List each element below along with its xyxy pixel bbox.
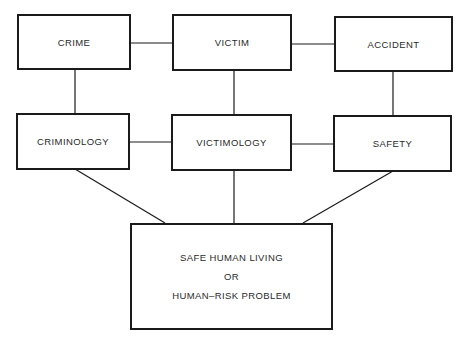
outcome-line-2: OR <box>224 267 239 286</box>
node-accident: ACCIDENT <box>334 16 453 72</box>
node-safety: SAFETY <box>333 115 452 172</box>
outcome-line-1: SAFE HUMAN LIVING <box>180 248 283 267</box>
node-victim: VICTIM <box>172 14 292 71</box>
node-label: VICTIMOLOGY <box>196 137 266 148</box>
node-outcome: SAFE HUMAN LIVING OR HUMAN–RISK PROBLEM <box>130 223 333 330</box>
node-label: CRIMINOLOGY <box>37 136 109 147</box>
node-label: ACCIDENT <box>368 39 420 50</box>
node-label: VICTIM <box>215 37 250 48</box>
node-crime: CRIME <box>17 14 131 70</box>
edge-criminology-outcome <box>75 169 165 223</box>
node-label: SAFETY <box>373 138 412 149</box>
edge-safety-outcome <box>303 171 393 223</box>
node-label: CRIME <box>58 37 91 48</box>
node-criminology: CRIMINOLOGY <box>16 113 130 170</box>
node-victimology: VICTIMOLOGY <box>171 114 292 171</box>
outcome-line-3: HUMAN–RISK PROBLEM <box>172 286 291 305</box>
